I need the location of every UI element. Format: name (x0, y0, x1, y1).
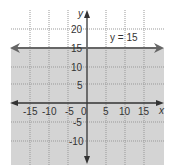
x-tick: -10 (42, 107, 56, 117)
y-tick: 10 (71, 63, 82, 73)
x-tick: 10 (119, 107, 130, 117)
y-axis-label: y (78, 9, 83, 19)
y-arrow-up-icon (84, 10, 90, 18)
x-axis-label: x (159, 106, 164, 116)
graph-canvas (0, 0, 170, 168)
y-tick: 5 (77, 81, 83, 91)
y-tick: -10 (69, 137, 83, 147)
graph: y x y = 15 20 15 10 5 -5 -10 -15 -10 -5 … (0, 0, 170, 168)
x-tick: -5 (65, 107, 74, 117)
x-tick: -15 (23, 107, 37, 117)
y-tick: 20 (71, 25, 82, 35)
x-tick: 15 (138, 107, 149, 117)
x-tick: 0 (81, 107, 87, 117)
x-tick: 5 (103, 107, 109, 117)
y-tick: -5 (73, 118, 82, 128)
equation-label: y = 15 (110, 33, 138, 43)
y-tick: 15 (71, 44, 82, 54)
